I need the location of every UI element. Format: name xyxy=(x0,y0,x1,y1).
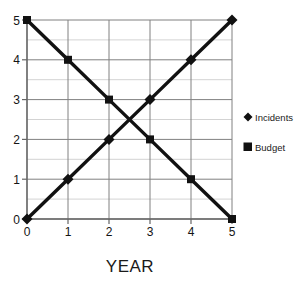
y-tick-label-5: 5 xyxy=(13,14,20,28)
x-axis-ticks xyxy=(68,219,232,224)
x-tick-label-5: 5 xyxy=(229,225,236,239)
x-tick-label-2: 2 xyxy=(106,225,113,239)
y-tick-label-1: 1 xyxy=(13,173,20,187)
x-tick-label-4: 4 xyxy=(188,225,195,239)
y-tick-label-4: 4 xyxy=(13,53,20,67)
legend-label-incidents: Incidents xyxy=(255,112,293,123)
y-tick-label-3: 3 xyxy=(13,93,20,107)
x-axis-title: YEAR xyxy=(106,257,154,276)
chart-figure: 5 4 3 2 1 0 0 1 2 3 4 5 YEAR Incidents B… xyxy=(0,0,302,282)
legend-label-budget: Budget xyxy=(255,142,285,153)
x-tick-label-1: 1 xyxy=(65,225,72,239)
y-tick-label-2: 2 xyxy=(13,133,20,147)
y-axis-ticks xyxy=(22,20,27,219)
legend-square-icon xyxy=(244,143,253,152)
y-tick-label-0: 0 xyxy=(13,213,20,227)
chart-legend: Incidents Budget xyxy=(244,112,294,153)
x-tick-label-3: 3 xyxy=(147,225,154,239)
x-tick-label-0: 0 xyxy=(24,225,31,239)
legend-diamond-icon xyxy=(244,113,253,122)
chart-canvas: 5 4 3 2 1 0 0 1 2 3 4 5 YEAR Incidents B… xyxy=(0,0,302,282)
